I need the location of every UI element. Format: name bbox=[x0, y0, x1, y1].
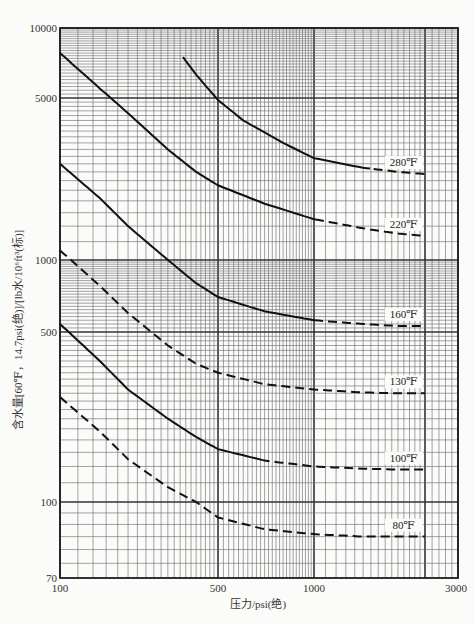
chart: 10000500010005001007010050010003000 280℉… bbox=[0, 0, 475, 624]
curve-label: 160℉ bbox=[390, 308, 418, 320]
curve-280℉ bbox=[183, 57, 370, 169]
curve-label: 280℉ bbox=[390, 156, 418, 168]
curve-160℉ bbox=[314, 320, 425, 326]
curve-80℉ bbox=[60, 397, 425, 536]
y-tick-label: 100 bbox=[41, 496, 58, 508]
y-tick-label: 500 bbox=[41, 326, 58, 338]
curve-280℉ bbox=[374, 169, 425, 174]
y-tick-label: 1000 bbox=[35, 254, 58, 266]
y-tick-label: 10000 bbox=[30, 22, 58, 34]
curve-label: 130℉ bbox=[390, 375, 418, 387]
y-axis-label: 含水量[60℉，14.7psi(绝)]/[lb水/10⁶ft³(标)] bbox=[11, 230, 25, 430]
x-tick-label: 3000 bbox=[445, 582, 468, 594]
x-axis-label: 压力/psi(绝) bbox=[230, 597, 287, 611]
curve-label: 80℉ bbox=[393, 519, 416, 531]
grid bbox=[60, 28, 458, 578]
curve-130℉ bbox=[60, 250, 425, 393]
y-tick-label: 5000 bbox=[35, 92, 58, 104]
x-tick-label: 100 bbox=[52, 582, 69, 594]
curve-100℉ bbox=[60, 324, 270, 461]
x-tick-label: 1000 bbox=[303, 582, 326, 594]
x-tick-label: 500 bbox=[210, 582, 227, 594]
curve-label: 100℉ bbox=[390, 452, 418, 464]
curve-label: 220℉ bbox=[390, 218, 418, 230]
